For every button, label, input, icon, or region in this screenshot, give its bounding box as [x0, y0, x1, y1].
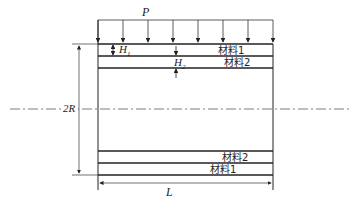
load-label: P — [141, 5, 150, 19]
h2-label: H2 — [173, 56, 186, 71]
length-label: L — [165, 185, 173, 199]
diameter-label: 2R — [63, 102, 76, 114]
layer-label-top-outer: 材料1 — [218, 44, 244, 56]
distributed-load — [98, 20, 273, 42]
composite-tube-diagram: P H1 H2 材料1 材料2 材料2 材料1 2R L — [0, 0, 354, 203]
layer-label-bottom-inner: 材料2 — [222, 151, 248, 163]
layer-label-top-inner: 材料2 — [224, 56, 250, 68]
layer-label-bottom-outer: 材料1 — [210, 163, 236, 175]
